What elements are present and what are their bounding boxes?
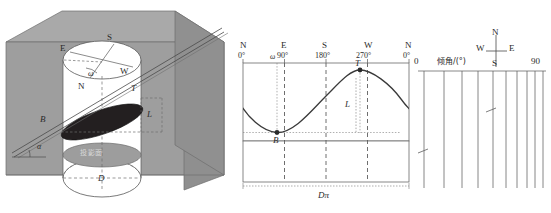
sine-top-name-S: S: [322, 41, 327, 50]
point-T-marker: [358, 68, 363, 73]
block-label-S: S: [107, 33, 112, 42]
sine-top-name-W: W: [364, 41, 373, 50]
sine-top-name-N-left: N: [240, 41, 247, 50]
dip-compass-W: W: [476, 44, 485, 53]
projection-plane-label: 投影面: [80, 150, 103, 157]
block-label-E: E: [60, 44, 66, 53]
block-label-N: N: [78, 82, 85, 91]
sine-annotation-B: B: [273, 136, 279, 145]
sine-tick-180deg: 180°: [315, 52, 330, 60]
sine-tick-90deg: 90°: [277, 52, 288, 60]
cylinder-top-ellipse: [63, 41, 141, 79]
sine-top-name-N-right: N: [405, 41, 412, 50]
dip-compass-S: S: [492, 59, 497, 68]
block-label-L: L: [147, 110, 152, 119]
block-label-omega: ω: [88, 70, 94, 78]
block-diagram-panel: [6, 11, 228, 197]
dip-tick-90: 90: [531, 57, 540, 66]
figure-root: E S W N ω B T L D α 投影面 N E S W N 0° ω 9…: [0, 0, 551, 213]
sine-xaxis-title: Dπ: [318, 191, 329, 200]
sine-top-name-E: E: [281, 41, 287, 50]
dip-compass-N: N: [492, 28, 499, 37]
unrolled-sine-chart-panel: [236, 59, 414, 189]
sine-annotation-L: L: [345, 100, 350, 109]
block-label-W: W: [120, 67, 129, 76]
sine-tick-0deg-right: 0°: [403, 52, 410, 60]
block-label-D: D: [98, 174, 105, 183]
block-label-B: B: [40, 115, 46, 124]
block-label-alpha: α: [37, 143, 41, 151]
dip-axis-title: 倾角/(°): [437, 58, 466, 66]
dip-tick-0: 0: [414, 57, 419, 66]
dip-tick-mark-2: [418, 149, 428, 153]
dip-tick-mark-1: [486, 108, 496, 112]
dip-compass-E: E: [509, 44, 515, 53]
sine-tick-0deg-left: 0°: [238, 52, 245, 60]
figure-svg: [0, 0, 551, 213]
sine-omega-marker: ω: [270, 53, 275, 61]
block-label-T: T: [131, 84, 136, 93]
sine-annotation-T: T: [355, 59, 360, 68]
